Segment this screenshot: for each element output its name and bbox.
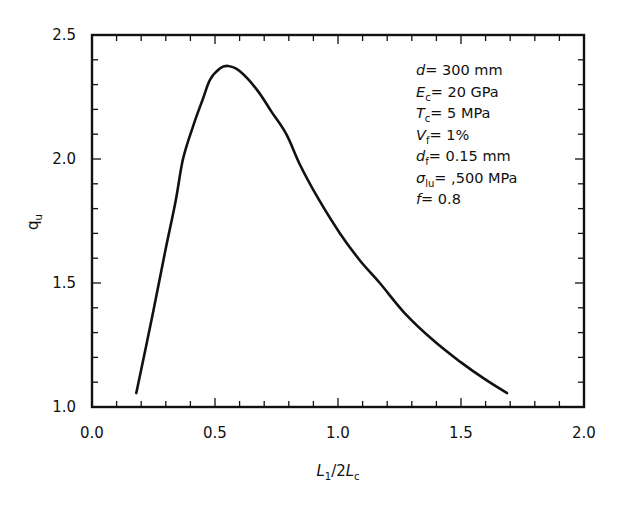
plot-frame bbox=[92, 35, 584, 407]
x-tick-label: 2.0 bbox=[572, 424, 596, 442]
y-axis-label-sub: u bbox=[33, 214, 44, 220]
x-tick-label: 0.0 bbox=[80, 424, 104, 442]
annotation-line: σlu= ,500 MPa bbox=[416, 170, 517, 189]
annotation-value: = 0.8 bbox=[421, 191, 461, 207]
x-tick-label: 1.0 bbox=[326, 424, 350, 442]
annotation-subscript: lu bbox=[425, 178, 434, 189]
x-axis-label-mid: /2 bbox=[331, 462, 346, 480]
x-tick-label: 1.5 bbox=[449, 424, 473, 442]
x-axis-label-L1: L bbox=[316, 462, 324, 480]
chart: 0.00.51.01.52.0 1.01.52.02.5 d= 300 mmEc… bbox=[0, 0, 628, 513]
annotation-value: = 300 mm bbox=[425, 62, 502, 78]
y-tick-label: 2.0 bbox=[52, 150, 76, 168]
annotation-line: f= 0.8 bbox=[416, 191, 461, 207]
y-tick-label: 1.0 bbox=[52, 398, 76, 416]
y-tick-labels: 1.01.52.02.5 bbox=[52, 26, 76, 416]
annotation-value: = 1% bbox=[429, 127, 469, 143]
x-axis-label-subc: c bbox=[354, 471, 360, 482]
y-tick-label: 2.5 bbox=[52, 26, 76, 44]
x-axis-label: L1/2Lc bbox=[316, 462, 359, 482]
annotation-line: df= 0.15 mm bbox=[416, 148, 511, 167]
annotation-line: d= 300 mm bbox=[416, 62, 503, 78]
annotation-value: = 0.15 mm bbox=[429, 148, 511, 164]
x-axis-label-Lc: L bbox=[346, 462, 354, 480]
y-axis-label-q: q bbox=[24, 220, 42, 230]
y-axis-label: qu bbox=[24, 214, 44, 230]
x-tick-label: 0.5 bbox=[203, 424, 227, 442]
annotation-value: = 5 MPa bbox=[430, 105, 490, 121]
parameter-annotations: d= 300 mmEc= 20 GPaTc= 5 MPaVf= 1%df= 0.… bbox=[416, 62, 517, 207]
minor-ticks bbox=[92, 35, 584, 407]
annotation-line: Tc= 5 MPa bbox=[416, 105, 490, 124]
annotation-line: Vf= 1% bbox=[416, 127, 469, 146]
annotation-value: = ,500 MPa bbox=[434, 170, 517, 186]
y-tick-label: 1.5 bbox=[52, 274, 76, 292]
x-tick-labels: 0.00.51.01.52.0 bbox=[80, 424, 596, 442]
annotation-line: Ec= 20 GPa bbox=[416, 84, 499, 103]
annotation-value: = 20 GPa bbox=[431, 84, 499, 100]
